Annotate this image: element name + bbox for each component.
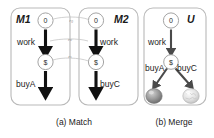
edge-m2-buyc-label: buyC <box>100 79 120 89</box>
edge-u-work-label: work <box>147 37 167 47</box>
panel-u-title: U <box>187 13 195 25</box>
panel-m2: M2 0 work $ buyC <box>79 8 138 105</box>
edge-u-buya-label: buyA <box>145 63 165 73</box>
panel-m1: M1 0 work $ buyA <box>11 8 70 105</box>
edge-m1-work-label: work <box>16 37 36 47</box>
node-u-money-label: $ <box>169 59 173 66</box>
relation-0-sub: 0 <box>71 20 73 24</box>
caption-merge: (b) Merge <box>156 117 193 127</box>
node-m1-money-label: $ <box>44 59 48 66</box>
figure-container: M1 0 work $ buyA M2 0 work $ buyC r0 <box>0 0 214 138</box>
dark-sphere-icon <box>146 89 162 104</box>
panel-m2-title: M2 <box>114 13 129 25</box>
edge-m2-work-label: work <box>99 37 119 47</box>
node-m1-start-label: 0 <box>44 17 48 24</box>
edge-m1-buya-label: buyA <box>16 79 36 89</box>
node-u-start-label: 0 <box>169 17 173 24</box>
panel-m1-title: M1 <box>16 13 31 25</box>
captions: (a) Match (b) Merge <box>56 117 193 127</box>
caption-match: (a) Match <box>56 117 92 127</box>
panel-m2-border <box>79 8 138 105</box>
node-m2-start-label: 0 <box>94 17 98 24</box>
panel-u: U 0 work $ buyA buyC <box>144 8 206 105</box>
light-sphere-icon <box>183 89 199 104</box>
edge-u-buyc-label: buyC <box>177 63 197 73</box>
relation-s-sub: s <box>70 55 72 59</box>
node-m2-money-label: $ <box>94 59 98 66</box>
